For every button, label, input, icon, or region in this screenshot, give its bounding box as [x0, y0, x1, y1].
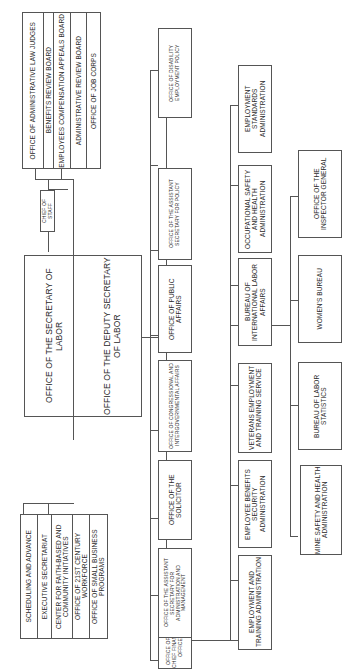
org-label: OFFICE OF THE INSPECTOR GENERAL — [313, 151, 328, 237]
org-box: MINE SAFETY AND HEALTH ADMINISTRATION — [300, 465, 342, 555]
connector — [150, 430, 158, 431]
org-label: OFFICE OF THE ASSISTANT SECRETARY FOR PO… — [169, 169, 181, 259]
connector — [230, 580, 238, 581]
staff-offices-bottom: SCHEDULING AND ADVANCE EXECUTIVE SECRETA… — [20, 514, 108, 639]
connector — [35, 179, 74, 180]
connector — [150, 518, 158, 519]
org-label: OFFICE OF THE ASSISTANT SECRETARY FOR AD… — [164, 549, 187, 637]
org-box: BUREAU OF INTERNATIONAL LABOR AFFAIRS — [238, 258, 272, 346]
connector — [150, 165, 158, 166]
org-box: OFFICE OF ADMINISTRATIVE LAW JUDGES — [23, 13, 44, 168]
connector — [150, 70, 158, 71]
connector — [61, 168, 62, 180]
org-box: EMPLOYEES COMPENSATION APPEALS BOARD — [54, 13, 70, 168]
org-label: OFFICE OF DISABILITY EMPLOYMENT POLICY — [169, 29, 181, 117]
org-box: SCHEDULING AND ADVANCE — [21, 515, 38, 638]
connector — [150, 660, 158, 661]
org-label: OFFICE OF PUBLIC AFFAIRS — [168, 266, 183, 352]
org-label: OFFICE OF THE SOLICITOR — [168, 461, 183, 539]
org-label: WOMEN'S BUREAU — [316, 268, 323, 330]
org-box: VETERANS EMPLOYMENT AND TRAINING SERVICE — [238, 363, 272, 453]
org-box: BUREAU OF LABOR STATISTICS — [298, 362, 342, 450]
org-box: OFFICE OF DISABILITY EMPLOYMENT POLICY — [158, 28, 192, 118]
org-box: OCCUPATIONAL SAFETY AND HEALTH ADMINISTR… — [238, 165, 272, 253]
org-box: OFFICE OF THE SOLICITOR — [158, 460, 192, 540]
org-box: OFFICE OF 21ST CENTURY WORKFORCE — [73, 515, 90, 638]
connector — [150, 335, 158, 336]
org-box: OFFICE OF CONGRESSIONAL AND INTERGOVERNM… — [158, 360, 192, 452]
connector — [290, 196, 298, 197]
org-label: OFFICE OF CONGRESSIONAL AND INTERGOVERNM… — [169, 361, 181, 451]
org-box: EMPLOYMENT AND TRAINING ADMINISTRATION — [238, 555, 272, 650]
org-box: CENTER FOR FAITH-BASED AND COMMUNITY INI… — [52, 515, 73, 638]
org-label: BUREAU OF LABOR STATISTICS — [313, 363, 328, 449]
org-box: OFFICE OF THE ASSISTANT SECRETARY FOR PO… — [158, 168, 192, 260]
org-label: OFFICE OF JOB CORPS — [90, 53, 97, 129]
org-label: EMPLOYMENT AND TRAINING ADMINISTRATION — [248, 556, 263, 649]
staff-offices-top: OFFICE OF ADMINISTRATIVE LAW JUDGES BENE… — [22, 12, 101, 169]
connector — [230, 385, 238, 386]
org-box: EXECUTIVE SECRETARIAT — [38, 515, 52, 638]
org-box: WOMEN'S BUREAU — [298, 255, 342, 343]
org-box: OFFICE OF THE ASSISTANT SECRETARY FOR AD… — [158, 548, 192, 638]
deputy-secretary-label: OFFICE OF THE DEPUTY SECRETARY OF LABOR — [102, 256, 122, 416]
connector — [150, 250, 158, 251]
org-label: EMPLOYEES COMPENSATION APPEALS BOARD — [58, 14, 65, 168]
org-box: OFFICE OF THE INSPECTOR GENERAL — [298, 150, 342, 238]
connector — [150, 70, 151, 660]
secretary-label: OFFICE OF THE SECRETARY OF LABOR — [44, 256, 64, 416]
org-label: BUREAU OF INTERNATIONAL LABOR AFFAIRS — [244, 259, 266, 345]
org-box: EMPLOYEE BENEFITS SECURITY ADMINISTRATIO… — [238, 460, 272, 548]
divider — [73, 255, 74, 417]
org-label: EXECUTIVE SECRETARIAT — [41, 534, 48, 619]
connector — [150, 595, 158, 596]
connector — [230, 285, 238, 286]
connector — [230, 105, 238, 106]
org-label: ADMINISTRATIVE REVIEW BOARD — [75, 36, 82, 145]
connector — [290, 536, 298, 537]
connector — [290, 405, 298, 406]
org-box: EMPLOYMENT STANDARDS ADMINISTRATION — [238, 65, 272, 153]
connector — [230, 485, 238, 486]
org-box: OFFICE OF JOB CORPS — [87, 13, 100, 168]
org-label: OCCUPATIONAL SAFETY AND HEALTH ADMINISTR… — [244, 166, 266, 252]
connector — [230, 185, 238, 186]
org-box: ADMINISTRATIVE REVIEW BOARD — [71, 13, 87, 168]
org-label: EMPLOYEE BENEFITS SECURITY ADMINISTRATIO… — [244, 461, 266, 547]
org-label: OFFICE OF SMALL BUSINESS PROGRAMS — [91, 515, 106, 638]
connector — [290, 300, 298, 301]
org-label: OFFICE OF ADMINISTRATIVE LAW JUDGES — [29, 22, 36, 159]
secretary-box: OFFICE OF THE SECRETARY OF LABOR OFFICE … — [24, 255, 142, 417]
org-label: BENEFITS REVIEW BOARD — [45, 47, 52, 133]
org-label: CENTER FOR FAITH-BASED AND COMMUNITY INI… — [55, 515, 70, 638]
org-box: OFFICE OF PUBLIC AFFAIRS — [158, 265, 192, 353]
org-label: EMPLOYMENT STANDARDS ADMINISTRATION — [244, 66, 266, 152]
connector — [35, 168, 36, 180]
chief-of-staff-box: CHIEF OF STAFF — [40, 190, 55, 232]
org-label: OFFICE OF 21ST CENTURY WORKFORCE — [74, 515, 89, 638]
org-label: CHIEF OF STAFF — [42, 191, 54, 231]
org-label: VETERANS EMPLOYMENT AND TRAINING SERVICE — [248, 364, 263, 452]
connector — [48, 232, 49, 252]
org-box: OFFICE OF SMALL BUSINESS PROGRAMS — [90, 515, 107, 638]
org-label: MINE SAFETY AND HEALTH ADMINISTRATION — [314, 466, 329, 554]
connector — [290, 196, 291, 536]
org-box: BENEFITS REVIEW BOARD — [44, 13, 54, 168]
org-label: SCHEDULING AND ADVANCE — [25, 530, 32, 622]
